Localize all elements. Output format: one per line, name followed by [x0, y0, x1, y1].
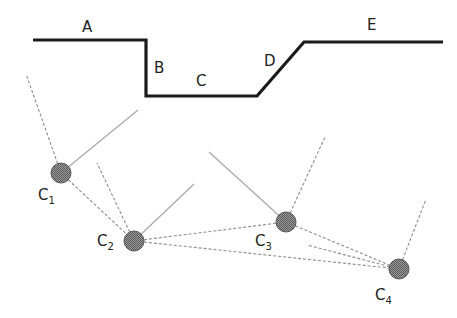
camera-label-subscript: 4: [385, 295, 391, 306]
segment-label-d: D: [264, 52, 276, 70]
ray-c4: [307, 245, 399, 269]
camera-c3: C3: [255, 212, 296, 252]
segment-label-e: E: [367, 16, 376, 34]
cameras: C1C2C3C4: [38, 163, 409, 306]
camera-label: C4: [375, 286, 392, 306]
surface-profile-line: [33, 40, 443, 96]
camera-rays: [26, 74, 426, 269]
ray-c3: [209, 152, 286, 222]
camera-node-icon: [276, 212, 296, 232]
camera-node-icon: [124, 231, 144, 251]
segment-labels: ABCDE: [82, 16, 376, 90]
ray-c2: [97, 163, 134, 241]
ray-c4: [399, 199, 426, 269]
camera-c4: C4: [375, 259, 409, 306]
ray-c3: [286, 222, 399, 269]
camera-label-subscript: 2: [107, 241, 113, 252]
stereo-camera-diagram: ABCDE C1C2C3C4: [0, 0, 457, 318]
ray-c1: [61, 173, 134, 241]
segment-label-a: A: [82, 18, 93, 36]
camera-label-subscript: 1: [48, 195, 54, 206]
camera-node-icon: [51, 163, 71, 183]
camera-c2: C2: [97, 231, 144, 252]
ray-c1: [61, 110, 138, 173]
camera-label: C1: [38, 186, 55, 206]
camera-label-subscript: 3: [265, 241, 271, 252]
segment-label-c: C: [196, 72, 206, 90]
ray-c2: [134, 184, 194, 241]
camera-label: C2: [97, 232, 114, 252]
segment-label-b: B: [154, 59, 164, 77]
ray-c1: [26, 74, 61, 173]
camera-c1: C1: [38, 163, 71, 206]
camera-label: C3: [255, 232, 272, 252]
ray-c3: [286, 137, 325, 222]
camera-node-icon: [389, 259, 409, 279]
